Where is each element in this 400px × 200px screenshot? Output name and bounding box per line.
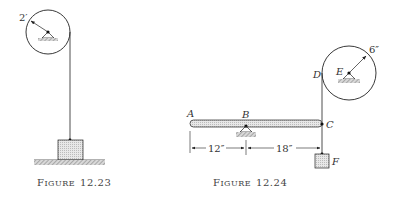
diagram-canvas: 2′ FIGURE12.23 6″ E D A B	[0, 0, 400, 200]
label-C: C	[326, 119, 334, 130]
radius-arrow	[349, 56, 366, 73]
dimension-BC: 18″	[276, 143, 293, 154]
point-C	[320, 122, 323, 125]
block	[58, 140, 83, 160]
figure-12-23: 2′ FIGURE12.23	[19, 10, 111, 188]
dimension-AB: 12″	[208, 143, 225, 154]
figure-caption: FIGURE12.23	[37, 177, 111, 188]
lever-bar	[190, 120, 322, 127]
figure-12-24: 6″ E D A B C 12″ 18	[186, 44, 379, 188]
label-E: E	[335, 66, 344, 77]
label-A: A	[186, 108, 194, 119]
label-D: D	[312, 69, 321, 80]
pivot-support-icon	[38, 30, 58, 41]
radius-label: 6″	[369, 44, 379, 55]
block-F	[315, 154, 329, 168]
ground-hatch	[34, 160, 105, 165]
label-B: B	[241, 109, 249, 120]
figure-caption: FIGURE12.24	[213, 177, 287, 188]
label-F: F	[331, 156, 340, 167]
radius-arrow	[31, 21, 48, 32]
radius-label: 2′	[19, 12, 28, 23]
